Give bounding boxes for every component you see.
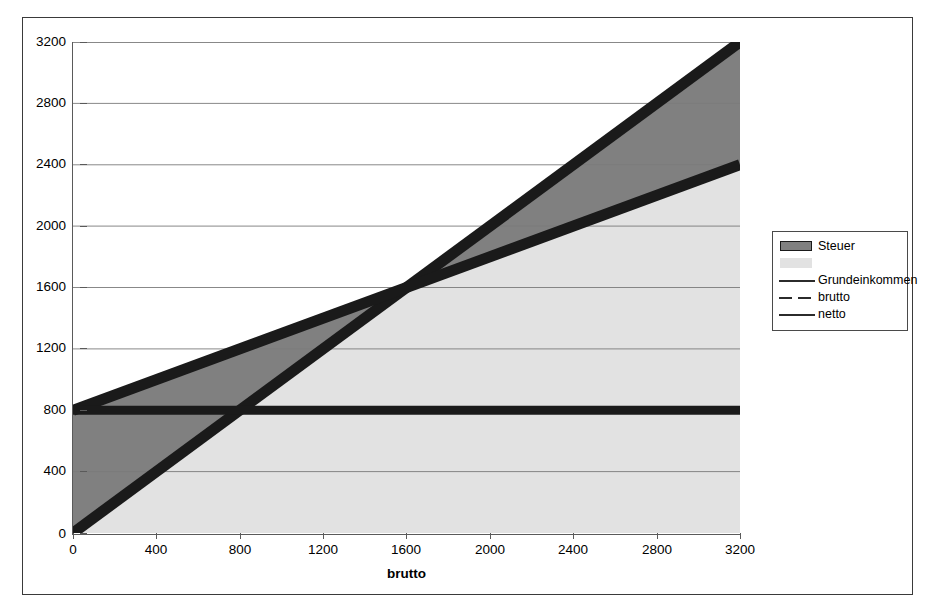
legend-swatch-steuer-icon	[779, 238, 815, 255]
x-tick-label: 2400	[543, 543, 603, 557]
legend-line-dashed-icon	[779, 289, 815, 306]
x-tick-label: 1200	[293, 543, 353, 557]
x-tick-label: 800	[210, 543, 270, 557]
x-tick-mark	[156, 533, 157, 539]
x-tick-mark	[657, 533, 658, 539]
chart-legend: Steuer Grundeinkommen brutto netto	[772, 231, 908, 331]
x-tick-mark	[490, 533, 491, 539]
x-tick-label: 2000	[460, 543, 520, 557]
legend-item-netto: netto	[779, 306, 902, 323]
x-tick-mark	[73, 533, 74, 539]
x-axis-title: brutto	[73, 566, 740, 581]
x-tick-label: 2800	[627, 543, 687, 557]
x-tick-mark	[406, 533, 407, 539]
x-tick-label: 0	[43, 543, 103, 557]
x-tick-label: 400	[126, 543, 186, 557]
legend-label: Steuer	[818, 240, 855, 253]
x-tick-mark	[740, 533, 741, 539]
legend-swatch-netto-area-icon	[779, 255, 815, 272]
x-tick-label: 3200	[710, 543, 770, 557]
legend-label: netto	[818, 308, 846, 321]
legend-item-netto-area	[779, 255, 902, 272]
legend-label: brutto	[818, 291, 850, 304]
x-tick-mark	[323, 533, 324, 539]
legend-label: Grundeinkommen	[818, 274, 917, 287]
legend-item-grundeinkommen: Grundeinkommen	[779, 272, 902, 289]
x-tick-mark	[240, 533, 241, 539]
legend-item-steuer: Steuer	[779, 238, 902, 255]
x-tick-label: 1600	[376, 543, 436, 557]
legend-line-solid-icon	[779, 272, 815, 289]
legend-item-brutto: brutto	[779, 289, 902, 306]
x-tick-mark	[573, 533, 574, 539]
legend-line-solid-icon	[779, 306, 815, 323]
